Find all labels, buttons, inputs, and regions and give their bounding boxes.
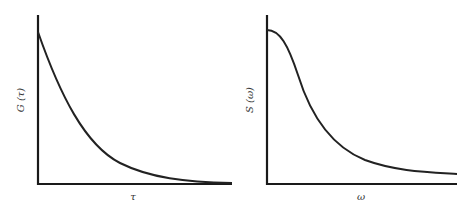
figure: G (τ) τ S (ω) ω: [0, 0, 476, 210]
decay-curve: [38, 32, 232, 183]
chart-spectral-density: S (ω) ω: [244, 15, 457, 202]
y-axis-label: G (τ): [15, 88, 26, 113]
chart-autocorrelation: G (τ) τ: [15, 15, 232, 202]
x-axis-label: ω: [357, 191, 365, 202]
lorentzian-curve: [267, 30, 457, 174]
x-axis-label: τ: [130, 191, 136, 202]
y-axis-label: S (ω): [244, 87, 255, 113]
